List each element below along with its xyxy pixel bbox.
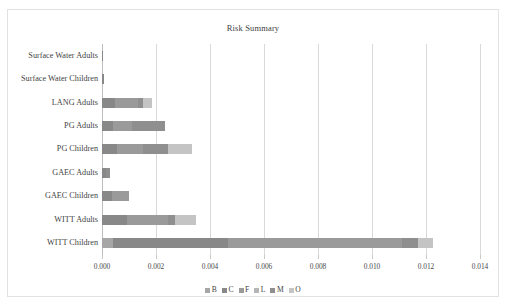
legend-swatch-icon (205, 288, 210, 293)
category-label: GAEC Adults (52, 169, 98, 177)
bar-segment-o[interactable] (143, 98, 152, 108)
bar-segment-m[interactable] (402, 238, 418, 248)
legend-item-o[interactable]: O (289, 285, 301, 294)
category-label: PG Adults (64, 122, 98, 130)
bar-segment-m[interactable] (143, 144, 167, 154)
legend-swatch-icon (239, 288, 244, 293)
chart-legend: BCFLMO (8, 285, 498, 294)
bar-segment-o[interactable] (418, 238, 433, 248)
x-tick-label: 0.004 (202, 262, 219, 271)
stacked-bar[interactable] (102, 191, 129, 201)
legend-swatch-icon (254, 288, 259, 293)
category-label: Surface Water Adults (28, 52, 98, 60)
bar-segment-c[interactable] (102, 121, 113, 131)
legend-swatch-icon (270, 288, 275, 293)
bar-row: Surface Water Adults (102, 44, 480, 67)
x-tick-label: 0.000 (94, 262, 111, 271)
bar-row: PG Adults (102, 114, 480, 137)
tick-mark (480, 255, 481, 259)
bar-segment-c[interactable] (102, 51, 103, 61)
bar-segment-o[interactable] (175, 215, 196, 225)
bar-segment-c[interactable] (102, 74, 104, 84)
category-label: WITT Adults (54, 216, 98, 224)
stacked-bar[interactable] (102, 215, 196, 225)
stacked-bar[interactable] (102, 238, 433, 248)
x-tick-label: 0.012 (418, 262, 435, 271)
x-tick-label: 0.010 (364, 262, 381, 271)
bar-row: Surface Water Children (102, 67, 480, 90)
tick-mark (156, 255, 157, 259)
bar-segment-c[interactable] (102, 98, 115, 108)
bar-segment-c[interactable] (113, 238, 228, 248)
tick-mark (318, 255, 319, 259)
plot-area: 0.0000.0020.0040.0060.0080.0100.0120.014… (102, 44, 480, 255)
tick-mark (426, 255, 427, 259)
bar-segment-c[interactable] (102, 144, 117, 154)
bar-segment-c[interactable] (102, 191, 112, 201)
bar-row: PG Children (102, 138, 480, 161)
legend-item-b[interactable]: B (205, 285, 217, 294)
legend-label: C (228, 285, 233, 294)
bar-segment-o[interactable] (168, 144, 192, 154)
bar-segment-f[interactable] (115, 98, 138, 108)
category-label: Surface Water Children (21, 75, 98, 83)
stacked-bar[interactable] (102, 51, 103, 61)
category-label: GAEC Children (45, 192, 98, 200)
chart-title: Risk Summary (8, 23, 498, 33)
legend-label: L (261, 285, 266, 294)
stacked-bar[interactable] (102, 98, 152, 108)
legend-label: B (212, 285, 217, 294)
legend-item-m[interactable]: M (270, 285, 283, 294)
x-tick-label: 0.014 (472, 262, 489, 271)
bar-row: GAEC Adults (102, 161, 480, 184)
stacked-bar[interactable] (102, 121, 165, 131)
bar-row: WITT Adults (102, 208, 480, 231)
legend-item-c[interactable]: C (222, 285, 234, 294)
x-tick-label: 0.008 (310, 262, 327, 271)
stacked-bar[interactable] (102, 168, 110, 178)
stacked-bar[interactable] (102, 144, 192, 154)
bar-segment-m[interactable] (106, 168, 110, 178)
tick-mark (210, 255, 211, 259)
chart-frame: Risk Summary 0.0000.0020.0040.0060.0080.… (7, 9, 499, 297)
legend-label: M (277, 285, 284, 294)
bar-segment-c[interactable] (102, 215, 127, 225)
legend-swatch-icon (222, 288, 227, 293)
bar-row: WITT Children (102, 232, 480, 255)
legend-item-f[interactable]: F (239, 285, 250, 294)
bar-segment-f[interactable] (113, 121, 132, 131)
legend-label: F (245, 285, 249, 294)
bar-segment-f[interactable] (117, 144, 143, 154)
tick-mark (102, 255, 103, 259)
stacked-bar[interactable] (102, 74, 104, 84)
bar-segment-f[interactable] (112, 191, 129, 201)
category-label: WITT Children (47, 239, 98, 247)
bar-segment-f[interactable] (228, 238, 402, 248)
bar-row: LANG Adults (102, 91, 480, 114)
tick-mark (264, 255, 265, 259)
x-tick-label: 0.002 (148, 262, 165, 271)
legend-swatch-icon (289, 288, 294, 293)
gridline (480, 44, 481, 255)
category-label: PG Children (57, 145, 98, 153)
x-tick-label: 0.006 (256, 262, 273, 271)
bar-segment-b[interactable] (102, 238, 113, 248)
legend-item-l[interactable]: L (254, 285, 265, 294)
bar-segment-m[interactable] (168, 215, 175, 225)
legend-label: O (295, 285, 300, 294)
category-label: LANG Adults (52, 98, 98, 106)
tick-mark (372, 255, 373, 259)
bar-row: GAEC Children (102, 185, 480, 208)
bar-segment-m[interactable] (132, 121, 165, 131)
bar-segment-f[interactable] (127, 215, 169, 225)
